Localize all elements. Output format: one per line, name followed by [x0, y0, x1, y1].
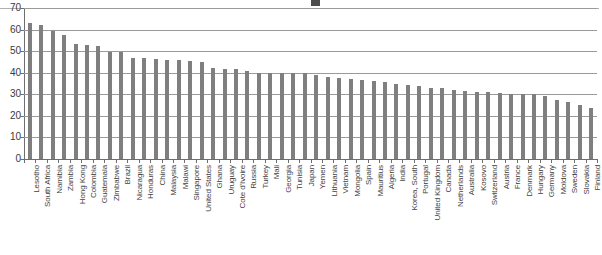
x-tick-label: Slovakia [583, 165, 591, 194]
x-tick-mark [104, 159, 105, 163]
x-tick-mark [597, 159, 598, 163]
x-tick-label: Lesotho [33, 165, 41, 193]
x-tick-label: Austria [503, 165, 511, 189]
x-tick-mark [471, 159, 472, 163]
x-tick-label: Hungary [537, 165, 545, 195]
x-tick-mark [253, 159, 254, 163]
x-tick-mark [242, 159, 243, 163]
x-tick-label: India [399, 165, 407, 182]
x-tick-mark [58, 159, 59, 163]
x-tick-mark [356, 159, 357, 163]
x-tick-mark [265, 159, 266, 163]
x-tick-label: Guatemala [101, 165, 109, 203]
x-tick-mark [368, 159, 369, 163]
y-tick-mark [20, 137, 24, 138]
x-tick-label: Lithuania [331, 165, 339, 197]
y-tick-mark [20, 116, 24, 117]
x-tick-label: Colombia [90, 165, 98, 198]
y-tick-mark [20, 73, 24, 74]
x-tick-mark [288, 159, 289, 163]
x-tick-label: Vietnam [342, 165, 350, 194]
x-tick-label: Ghana [216, 165, 224, 189]
x-tick-mark [391, 159, 392, 163]
x-tick-mark [482, 159, 483, 163]
x-tick-label: Mauritius [377, 165, 385, 197]
x-tick-label: Mongolia [354, 165, 362, 197]
y-tick-mark [20, 51, 24, 52]
x-tick-mark [139, 159, 140, 163]
x-tick-mark [414, 159, 415, 163]
x-tick-mark [116, 159, 117, 163]
x-tick-label: Spain [365, 165, 373, 185]
x-tick-mark [24, 159, 25, 163]
x-tick-mark [345, 159, 346, 163]
x-tick-mark [586, 159, 587, 163]
x-tick-label: Yemen [319, 165, 327, 189]
x-tick-label: Nicaragua [136, 165, 144, 201]
x-tick-mark [459, 159, 460, 163]
x-tick-mark [81, 159, 82, 163]
x-tick-label: Portugal [422, 165, 430, 194]
x-tick-mark [437, 159, 438, 163]
x-tick-label: Australia [468, 165, 476, 195]
x-tick-mark [93, 159, 94, 163]
x-tick-label: Brazil [124, 165, 132, 184]
x-tick-mark [322, 159, 323, 163]
x-tick-mark [299, 159, 300, 163]
x-tick-mark [47, 159, 48, 163]
x-tick-label: Honduras [147, 165, 155, 199]
x-tick-mark [551, 159, 552, 163]
y-tick-mark [20, 8, 24, 9]
x-tick-label: Germany [548, 165, 556, 197]
x-tick-label: Finland [594, 165, 602, 191]
x-tick-label: Russia [250, 165, 258, 189]
x-tick-label: Sweden [571, 165, 579, 193]
x-tick-mark [196, 159, 197, 163]
x-tick-mark [425, 159, 426, 163]
x-tick-label: Namibia [56, 165, 64, 194]
x-tick-mark [379, 159, 380, 163]
x-tick-label: Hong Kong [79, 165, 87, 204]
x-tick-label: United Kingdom [434, 165, 442, 221]
x-tick-label: Malaysia [170, 165, 178, 196]
x-tick-mark [311, 159, 312, 163]
x-tick-mark [528, 159, 529, 163]
x-tick-mark [207, 159, 208, 163]
x-tick-label: France [514, 165, 522, 189]
x-tick-label: Canada [445, 165, 453, 192]
x-tick-mark [127, 159, 128, 163]
x-tick-mark [173, 159, 174, 163]
y-tick-mark [20, 94, 24, 95]
x-tick-label: Algeria [388, 165, 396, 189]
x-tick-mark [35, 159, 36, 163]
y-tick-mark [20, 30, 24, 31]
x-tick-mark [574, 159, 575, 163]
x-tick-label: Moldova [560, 165, 568, 195]
x-tick-label: Mali [273, 165, 281, 179]
x-tick-mark [563, 159, 564, 163]
x-tick-mark [70, 159, 71, 163]
x-tick-mark [505, 159, 506, 163]
x-tick-label: Uruguay [228, 165, 236, 195]
x-tick-label: China [159, 165, 167, 185]
x-tick-label: Zambia [67, 165, 75, 191]
x-tick-label: Cote d'Ivoire [239, 165, 247, 208]
x-tick-label: Japan [308, 165, 316, 186]
x-tick-mark [184, 159, 185, 163]
x-tick-mark [540, 159, 541, 163]
x-tick-mark [150, 159, 151, 163]
x-tick-label: United States [205, 165, 213, 212]
x-tick-mark [448, 159, 449, 163]
x-tick-label: Zimbabwe [113, 165, 121, 201]
x-tick-label: Korea, South [411, 165, 419, 211]
x-tick-mark [230, 159, 231, 163]
x-tick-label: Kosovo [480, 165, 488, 191]
x-tick-label: Singapore [193, 165, 201, 201]
x-tick-mark [162, 159, 163, 163]
x-tick-label: Malawi [182, 165, 190, 189]
x-tick-mark [517, 159, 518, 163]
x-tick-label: Georgia [285, 165, 293, 193]
x-tick-mark [276, 159, 277, 163]
